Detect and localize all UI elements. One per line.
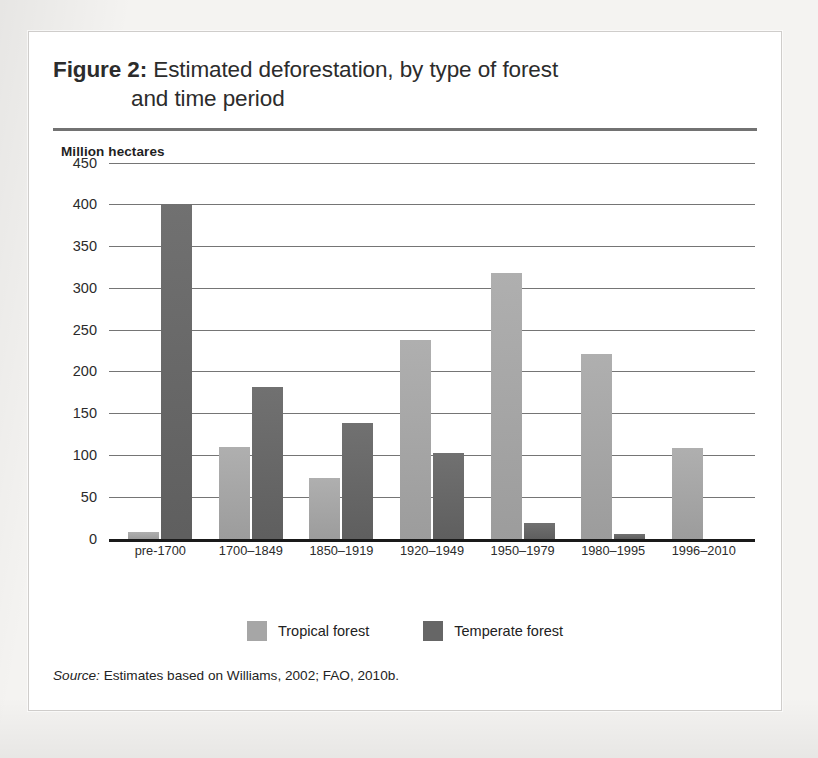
gridline — [109, 163, 755, 164]
y-axis-tick-label: 100 — [53, 447, 97, 463]
x-axis-tick-label: 1950–1979 — [477, 543, 568, 558]
scanned-page: Figure 2: Estimated deforestation, by ty… — [0, 0, 818, 758]
x-axis-ticks: pre-17001700–18491850–19191920–19491950–… — [109, 543, 755, 558]
source-keyword: Source: — [53, 668, 100, 683]
chart-gridlines — [109, 163, 755, 539]
legend-swatch-temperate — [423, 621, 443, 641]
y-axis-tick-label: 150 — [53, 405, 97, 421]
y-axis-tick-label: 450 — [53, 155, 97, 171]
chart-legend: Tropical forestTemperate forest — [29, 621, 781, 641]
figure-title-line2: and time period — [53, 84, 757, 113]
y-axis-tick-label: 250 — [53, 322, 97, 338]
legend-item: Temperate forest — [423, 621, 563, 641]
title-divider — [53, 128, 757, 131]
x-axis-tick-label: 1996–2010 — [658, 543, 749, 558]
y-axis-tick-label: 0 — [53, 531, 97, 547]
y-axis-tick-label: 200 — [53, 363, 97, 379]
source-note: Source: Estimates based on Williams, 200… — [53, 668, 399, 683]
x-axis-tick-label: 1980–1995 — [568, 543, 659, 558]
gridline — [109, 497, 755, 498]
figure-title-line1: Estimated deforestation, by type of fore… — [153, 57, 558, 82]
legend-label: Temperate forest — [454, 623, 563, 639]
y-axis-tick-label: 400 — [53, 196, 97, 212]
figure-card: Figure 2: Estimated deforestation, by ty… — [28, 31, 782, 711]
gridline — [109, 288, 755, 289]
page-title: Figure 2: Estimated deforestation, by ty… — [53, 32, 757, 114]
gridline — [109, 330, 755, 331]
x-axis-tick-label: 1920–1949 — [387, 543, 478, 558]
legend-swatch-tropical — [247, 621, 267, 641]
source-text: Estimates based on Williams, 2002; FAO, … — [104, 668, 399, 683]
legend-label: Tropical forest — [278, 623, 369, 639]
gridline — [109, 246, 755, 247]
y-axis-label: Million hectares — [53, 131, 757, 159]
gridline — [109, 455, 755, 456]
x-axis-tick-label: 1700–1849 — [206, 543, 297, 558]
chart-plot-area: 450400350300250200150100500 pre-17001700… — [53, 163, 757, 539]
figure-label: Figure 2: — [53, 57, 147, 82]
gridline — [109, 371, 755, 372]
axis-baseline — [109, 539, 755, 542]
x-axis-tick-label: 1850–1919 — [296, 543, 387, 558]
y-axis-tick-label: 350 — [53, 238, 97, 254]
y-axis-tick-label: 300 — [53, 280, 97, 296]
legend-item: Tropical forest — [247, 621, 369, 641]
x-axis-tick-label: pre-1700 — [115, 543, 206, 558]
y-axis-tick-label: 50 — [53, 489, 97, 505]
gridline — [109, 413, 755, 414]
gridline — [109, 204, 755, 205]
